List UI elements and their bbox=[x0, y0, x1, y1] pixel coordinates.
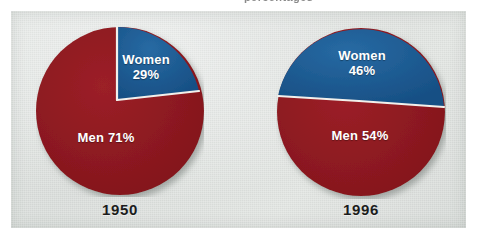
pie-1996-year-label: 1996 bbox=[276, 201, 446, 218]
pie-1950-graphic bbox=[36, 25, 204, 197]
pie-1950-year-label: 1950 bbox=[36, 201, 204, 218]
pie-chart-1996: Women 46% Men 54% 1996 bbox=[276, 25, 446, 221]
pie-chart-1950: Women 29% Men 71% 1950 bbox=[36, 25, 204, 221]
pie-1996-graphic bbox=[276, 25, 446, 199]
figure-root: percentages bbox=[0, 0, 478, 240]
pie-chart-group: Women 29% Men 71% 1950 bbox=[0, 0, 478, 240]
